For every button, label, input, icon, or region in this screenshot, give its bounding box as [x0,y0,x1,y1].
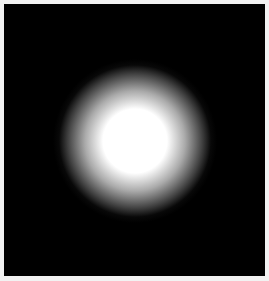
radial-glow [4,4,265,276]
black-square-canvas [4,4,265,276]
